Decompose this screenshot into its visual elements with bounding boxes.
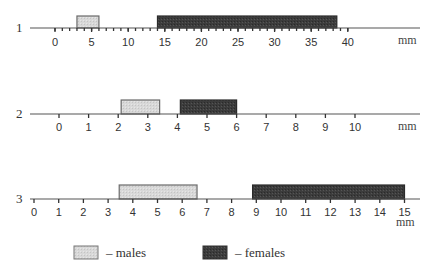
tick-label: 20	[195, 36, 207, 48]
tick-label: 9	[253, 206, 259, 218]
tick-label: 40	[342, 36, 354, 48]
tick-label: 15	[159, 36, 171, 48]
scale-row-1: 1 0510152025303540 mm	[16, 16, 420, 48]
tick-label: 10	[275, 206, 287, 218]
unit-label: mm	[398, 33, 417, 47]
tick-label: 9	[322, 121, 328, 133]
range-bar-females	[180, 100, 236, 114]
tick-label: 3	[105, 206, 111, 218]
tick-label: 0	[31, 206, 37, 218]
tick-label: 5	[89, 36, 95, 48]
tick-label: 8	[293, 121, 299, 133]
tick-label: 12	[324, 206, 336, 218]
tick-label: 7	[204, 206, 210, 218]
row-label: 2	[16, 106, 23, 121]
tick-label: 8	[229, 206, 235, 218]
tick-label: 30	[268, 36, 280, 48]
legend-label-females: – females	[234, 245, 285, 260]
unit-label: mm	[396, 215, 415, 229]
tick-label: 4	[174, 121, 180, 133]
tick-label: 7	[263, 121, 269, 133]
unit-label: mm	[398, 119, 417, 133]
range-bar-males	[77, 16, 99, 28]
tick-label: 10	[122, 36, 134, 48]
tick-label: 13	[349, 206, 361, 218]
tick-label: 4	[130, 206, 136, 218]
tick-label: 11	[300, 206, 311, 218]
tick-label: 0	[52, 36, 58, 48]
tick-label: 3	[145, 121, 151, 133]
tick-label: 2	[115, 121, 121, 133]
legend-swatch-males	[74, 246, 98, 259]
size-range-chart: 1 0510152025303540 mm 2 012345678910 mm …	[0, 0, 438, 275]
tick-label: 1	[86, 121, 92, 133]
tick-label: 2	[80, 206, 86, 218]
range-bar-females	[253, 185, 405, 199]
tick-label: 25	[232, 36, 244, 48]
tick-label: 14	[374, 206, 386, 218]
tick-label: 10	[349, 121, 361, 133]
row-label: 1	[16, 20, 23, 35]
tick-label: 5	[154, 206, 160, 218]
tick-label: 5	[204, 121, 210, 133]
legend-label-males: – males	[105, 245, 146, 260]
tick-label: 1	[56, 206, 62, 218]
legend-swatch-females	[203, 246, 227, 259]
tick-label: 35	[305, 36, 317, 48]
scale-row-2: 2 012345678910 mm	[16, 100, 420, 133]
row-label: 3	[16, 191, 23, 206]
range-bar-males	[121, 100, 159, 114]
scale-row-3: 3 0123456789101112131415 mm	[16, 185, 420, 229]
tick-label: 6	[234, 121, 240, 133]
range-bar-males	[119, 185, 197, 199]
legend: – males – females	[74, 245, 285, 260]
tick-label: 0	[56, 121, 62, 133]
range-bar-females	[157, 16, 336, 28]
tick-label: 6	[179, 206, 185, 218]
